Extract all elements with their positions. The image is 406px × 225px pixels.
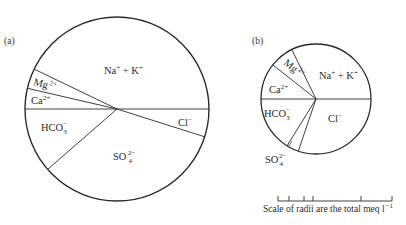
label-b-mg: Mg2+ — [282, 56, 308, 80]
scale-bar — [278, 196, 392, 201]
figure: (a) (b) Na+ + K+ Mg2+ Ca2+ HCO3− SO42− C… — [0, 0, 406, 225]
pie-chart-a — [25, 17, 209, 201]
label-b-ca: Ca2+ — [269, 83, 288, 95]
panel-label-b: (b) — [252, 36, 263, 47]
label-a-cl: Cl− — [178, 116, 192, 128]
label-a-so4: SO42− — [113, 149, 135, 165]
label-b-na-k: Na+ + K+ — [319, 69, 358, 81]
label-a-na-k: Na+ + K+ — [104, 64, 143, 76]
label-a-hco3: HCO3− — [41, 120, 67, 136]
pie-chart-b — [261, 44, 371, 154]
scale-bar-ticks — [278, 196, 392, 201]
pie-b-dividers — [261, 50, 371, 152]
slice-divider — [298, 99, 316, 151]
label-a-ca: Ca2+ — [31, 94, 50, 106]
label-b-hco3: HCO3− — [264, 106, 290, 122]
slice-divider — [48, 109, 117, 169]
label-b-so4: SO42− — [265, 152, 286, 168]
panel-label-a: (a) — [4, 36, 15, 47]
slice-divider — [287, 99, 316, 146]
scale-caption: Scale of radii are the total meq l−1 — [263, 202, 394, 214]
label-b-cl: Cl− — [328, 112, 342, 124]
